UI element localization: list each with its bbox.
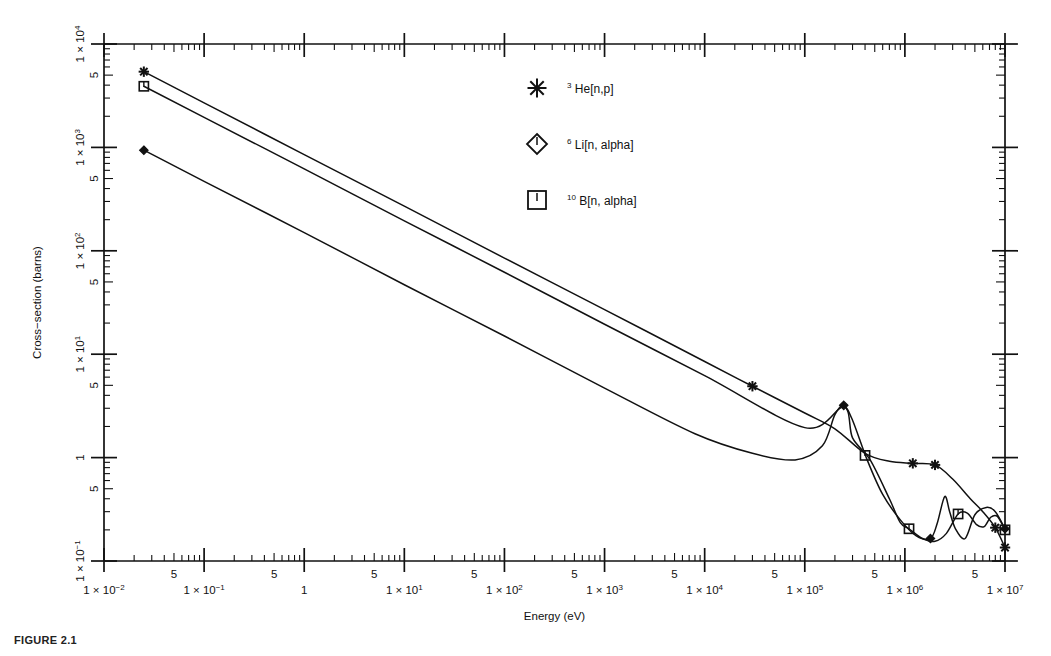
legend-label: 3 He[n,p] [567,81,613,96]
legend-label: 10 B[n, alpha] [567,193,637,208]
svg-text:1 × 102: 1 × 102 [486,583,523,597]
axis-ticks [91,33,1018,572]
svg-text:5: 5 [571,568,577,580]
svg-text:1 × 107: 1 × 107 [987,583,1024,597]
svg-text:5: 5 [88,486,100,492]
svg-text:5: 5 [771,568,777,580]
legend-item-3[interactable]: 10 B[n, alpha] [528,191,637,209]
series-2 [140,146,1010,543]
svg-text:1 × 102: 1 × 102 [73,232,87,269]
svg-text:1: 1 [301,584,307,596]
svg-text:1 × 101: 1 × 101 [73,335,87,372]
legend-item-1[interactable]: 3 He[n,p] [528,79,614,98]
diamond-marker [140,146,148,154]
svg-text:1 × 106: 1 × 106 [887,583,924,597]
svg-text:5: 5 [88,175,100,181]
series-markers [140,146,1010,543]
svg-text:5: 5 [88,382,100,388]
svg-text:1 × 104: 1 × 104 [686,583,723,597]
svg-text:5: 5 [671,568,677,580]
svg-text:1 × 103: 1 × 103 [73,128,87,165]
svg-text:1 × 105: 1 × 105 [786,583,823,597]
svg-text:1 × 10−2: 1 × 10−2 [83,583,125,597]
svg-text:5: 5 [88,72,100,78]
svg-text:Cross−section (barns): Cross−section (barns) [31,246,43,359]
svg-text:5: 5 [371,568,377,580]
cross-section-chart: 1 × 10−21 × 10−111 × 1011 × 1021 × 1031 … [0,0,1051,630]
svg-text:Energy (eV): Energy (eV) [524,610,586,622]
curve-line [144,86,1005,541]
legend: 3 He[n,p]6 Li[n, alpha]10 B[n, alpha] [527,79,637,210]
figure-caption: FIGURE 2.1 [14,634,77,646]
svg-text:5: 5 [171,568,177,580]
curve-line [144,150,1005,539]
svg-text:1 × 10−1: 1 × 10−1 [183,583,225,597]
axis-tick-labels: 1 × 10−21 × 10−111 × 1011 × 1021 × 1031 … [73,25,1024,596]
legend-item-2[interactable]: 6 Li[n, alpha] [527,134,634,154]
svg-text:1 × 103: 1 × 103 [586,583,623,597]
svg-text:1 × 10−1: 1 × 10−1 [73,540,87,582]
svg-text:1: 1 [74,454,86,460]
svg-text:5: 5 [471,568,477,580]
svg-text:1 × 101: 1 × 101 [386,583,423,597]
figure-container: 1 × 10−21 × 10−111 × 1011 × 1021 × 1031 … [0,0,1051,656]
svg-text:5: 5 [972,568,978,580]
axis-titles: Energy (eV)Cross−section (barns) [31,246,585,622]
svg-text:5: 5 [872,568,878,580]
svg-text:5: 5 [271,568,277,580]
svg-text:5: 5 [88,279,100,285]
svg-text:1 × 104: 1 × 104 [73,25,87,62]
legend-label: 6 Li[n, alpha] [567,137,634,152]
